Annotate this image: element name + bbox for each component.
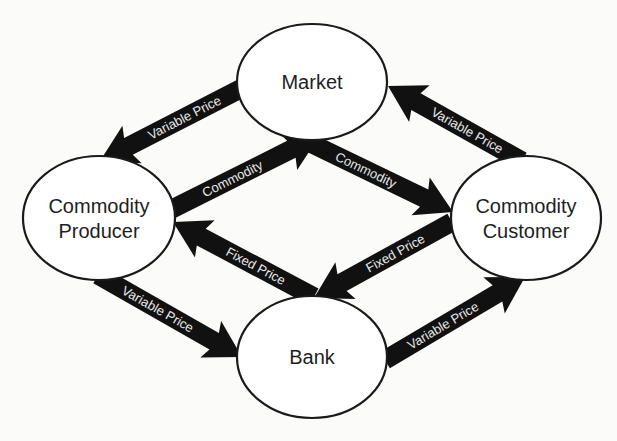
arrow-label: Commodity: [200, 157, 266, 200]
commodity-flow-diagram: Variable PriceVariable PriceCommodityCom…: [0, 0, 617, 441]
node-ellipse: [23, 156, 175, 280]
node-ellipse: [451, 156, 601, 280]
node-bank: Bank: [237, 296, 387, 418]
arrow-label: Commodity: [333, 149, 399, 191]
arrow-label: Variable Price: [429, 104, 506, 156]
arrow-label: Variable Price: [145, 93, 223, 143]
node-label: Customer: [483, 220, 570, 242]
node-label: Market: [281, 71, 343, 93]
nodes-layer: MarketCommodityProducerCommodityCustomer…: [23, 24, 601, 418]
arrow-label: Variable Price: [405, 299, 481, 353]
arrow-label: Fixed Price: [363, 231, 427, 276]
node-market: Market: [237, 24, 387, 140]
node-label: Commodity: [48, 195, 149, 217]
node-label: Bank: [289, 346, 336, 368]
node-label: Producer: [58, 220, 139, 242]
node-customer: CommodityCustomer: [451, 156, 601, 280]
arrow-label: Fixed Price: [224, 244, 288, 288]
node-producer: CommodityProducer: [23, 156, 175, 280]
arrow-label: Variable Price: [119, 283, 196, 336]
node-label: Commodity: [475, 195, 576, 217]
